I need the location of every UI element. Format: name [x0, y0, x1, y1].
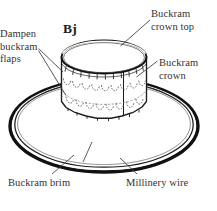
label-buckram-crown: Buckram crown	[159, 56, 198, 82]
buckram-crown	[62, 41, 147, 122]
label-dampen-buckram-flaps: Dampen buckram flaps	[0, 28, 37, 66]
leader-crown-top	[121, 20, 151, 46]
label-crown-top-line-2: crown top	[151, 20, 194, 33]
label-dampen-line-3: flaps	[0, 53, 37, 66]
label-millinery-wire: Millinery wire	[126, 177, 188, 189]
label-dampen-line-1: Dampen	[0, 28, 37, 41]
buckram-crown-top	[62, 41, 147, 74]
figure-title: Bj	[63, 21, 77, 37]
label-buckram-brim: Buckram brim	[8, 177, 70, 189]
label-crown-top-line-1: Buckram	[151, 7, 194, 20]
label-crown-line-1: Buckram	[159, 56, 198, 69]
label-dampen-line-2: buckram	[0, 41, 37, 54]
label-buckram-crown-top: Buckram crown top	[151, 7, 194, 33]
leader-flaps-upper	[39, 49, 64, 73]
label-crown-line-2: crown	[159, 69, 198, 82]
